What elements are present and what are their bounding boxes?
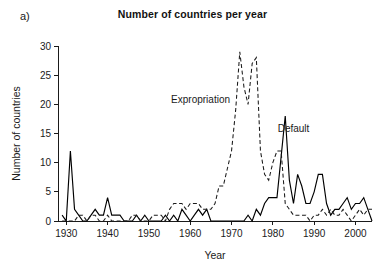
series-lines <box>62 52 372 221</box>
y-axis-title: Number of countries <box>10 86 22 181</box>
y-tick-label-25: 25 <box>40 70 52 81</box>
y-tick-label-5: 5 <box>45 186 51 197</box>
x-tick-label-1970: 1970 <box>220 228 243 239</box>
x-axis: 19301940195019601970198019902000 <box>55 221 372 239</box>
annotation-default: Default <box>278 123 310 134</box>
y-tick-label-10: 10 <box>40 157 52 168</box>
x-tick-label-1980: 1980 <box>262 228 285 239</box>
x-tick-label-2000: 2000 <box>344 228 367 239</box>
figure-panel-a: a) Number of countries per year 05101520… <box>0 0 385 278</box>
series-line-default <box>62 116 372 221</box>
x-tick-label-1960: 1960 <box>179 228 202 239</box>
x-tick-label-1990: 1990 <box>303 228 326 239</box>
x-tick-label-1950: 1950 <box>138 228 161 239</box>
y-tick-label-30: 30 <box>40 41 52 52</box>
series-annotations: ExpropriationDefault <box>171 94 309 134</box>
y-tick-label-0: 0 <box>45 216 51 227</box>
x-axis-title: Year <box>204 249 226 261</box>
y-axis: 051015202530 <box>40 41 58 227</box>
annotation-expropriation: Expropriation <box>171 94 230 105</box>
x-tick-label-1930: 1930 <box>55 228 78 239</box>
y-tick-label-20: 20 <box>40 99 52 110</box>
y-tick-label-15: 15 <box>40 128 52 139</box>
x-tick-label-1940: 1940 <box>96 228 119 239</box>
line-chart-number-of-countries-per-year: 051015202530 193019401950196019701980199… <box>0 0 385 278</box>
